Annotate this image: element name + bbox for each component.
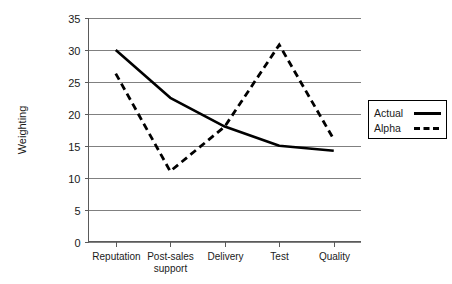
legend-label-actual: Actual [374,107,403,119]
y-tick-label: 10 [68,173,80,185]
y-tick-label: 20 [68,109,80,121]
y-tick-label: 5 [74,205,80,217]
line-chart: 05101520253035 ReputationPost-salessuppo… [0,0,452,284]
x-tick-label: Post-salessupport [147,251,194,274]
y-tick-label: 25 [68,77,80,89]
legend-label-alpha: Alpha [374,122,401,134]
x-tick-label: Test [270,251,289,262]
y-tick-label: 0 [74,237,80,249]
y-tick-label: 35 [68,13,80,25]
chart-canvas: 05101520253035 ReputationPost-salessuppo… [0,0,452,284]
legend: Actual Alpha [369,101,447,139]
x-tick-label: Quality [319,251,350,262]
x-tick-label: Reputation [92,251,140,262]
x-tick-label: Delivery [207,251,243,262]
y-tick-label: 30 [68,45,80,57]
y-axis-title: Weighting [16,106,28,155]
y-tick-label: 15 [68,141,80,153]
